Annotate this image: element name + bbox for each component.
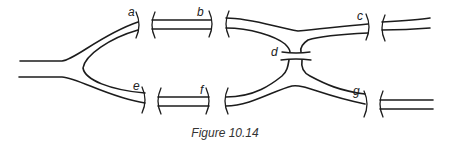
segment-ef bbox=[158, 97, 209, 106]
segment-g-end bbox=[380, 100, 433, 109]
segment-c-end bbox=[382, 18, 430, 30]
left-fork bbox=[19, 22, 145, 103]
cut-e-left bbox=[158, 88, 161, 114]
cut-d-top bbox=[282, 52, 310, 53]
label-b: b bbox=[197, 6, 204, 18]
cut-a-right bbox=[136, 12, 139, 38]
label-g: g bbox=[353, 85, 360, 97]
label-c: c bbox=[357, 10, 363, 22]
cut-f-right bbox=[206, 88, 209, 114]
label-a: a bbox=[128, 6, 135, 18]
upper-strip-bc bbox=[226, 18, 368, 52]
cut-d-bottom bbox=[281, 59, 311, 60]
cut-b-right bbox=[209, 11, 212, 37]
label-d: d bbox=[271, 46, 278, 58]
cut-c-left bbox=[382, 15, 385, 41]
figure-caption: Figure 10.14 bbox=[0, 126, 450, 140]
cut-g-left bbox=[380, 91, 383, 117]
segment-ab bbox=[152, 20, 211, 29]
lower-strip-fg bbox=[226, 60, 365, 106]
cut-f-left bbox=[225, 88, 228, 114]
label-f: f bbox=[200, 84, 203, 96]
cut-a-left bbox=[152, 12, 155, 38]
label-e: e bbox=[133, 80, 140, 92]
cut-b-left bbox=[226, 11, 229, 37]
cut-e-right bbox=[142, 87, 145, 113]
cut-c-right bbox=[366, 14, 369, 40]
diagram-figure: a b c d e f g Figure 10.14 bbox=[0, 0, 450, 150]
